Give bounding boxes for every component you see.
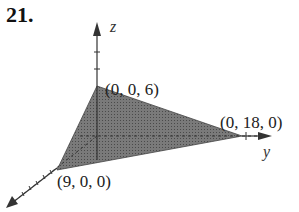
x-arrow-icon bbox=[6, 196, 18, 208]
y-arrow-icon bbox=[258, 132, 272, 140]
vertex-label-x: (9, 0, 0) bbox=[57, 172, 111, 192]
vertex-label-z: (0, 0, 6) bbox=[105, 80, 159, 100]
vertex-label-y: (0, 18, 0) bbox=[220, 113, 282, 133]
z-arrow-icon bbox=[93, 22, 101, 36]
plane-diagram bbox=[0, 0, 299, 212]
z-axis-label: z bbox=[110, 18, 116, 36]
y-axis-label: y bbox=[263, 143, 270, 161]
